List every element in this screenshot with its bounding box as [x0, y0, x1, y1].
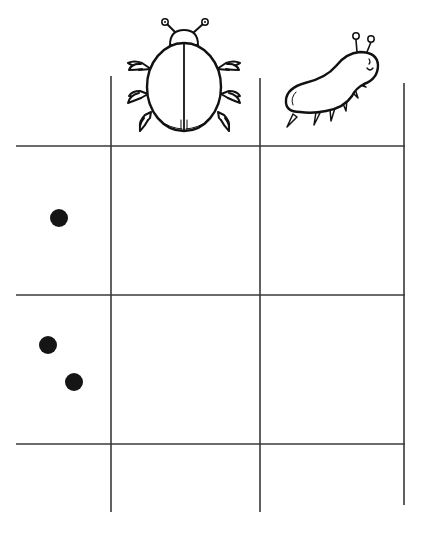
count-dot [39, 336, 57, 354]
cell-row-2-caterpillar[interactable] [261, 296, 403, 443]
worksheet-canvas [0, 0, 426, 546]
caterpillar-icon [286, 33, 378, 127]
counting-worksheet: Ladybug Caterpillar [0, 0, 426, 546]
cell-row-1-ladybug[interactable] [112, 147, 259, 294]
row-1-dots [50, 209, 68, 227]
count-dot [50, 209, 68, 227]
cell-row-3-caterpillar[interactable] [261, 445, 403, 505]
cell-row-3-count[interactable] [17, 445, 110, 505]
caterpillar-body [286, 52, 378, 113]
count-dot [65, 373, 83, 391]
answer-cells [17, 147, 403, 511]
row-2-dots [39, 336, 83, 391]
cell-row-3-ladybug[interactable] [112, 445, 259, 511]
ladybug-icon [128, 19, 240, 131]
cell-row-2-ladybug[interactable] [112, 296, 259, 443]
cell-row-1-caterpillar[interactable] [261, 147, 403, 294]
